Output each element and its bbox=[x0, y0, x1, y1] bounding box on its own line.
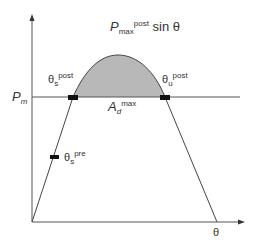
label-sup: max bbox=[121, 99, 136, 108]
label-theta-u-post: θupost bbox=[162, 72, 188, 88]
x-axis-label: θ bbox=[213, 227, 219, 238]
label-sup: pre bbox=[74, 149, 86, 158]
curve-label-sup: post bbox=[134, 19, 149, 28]
marker-theta-u-post bbox=[160, 95, 170, 100]
curve-label-suffix: sin θ bbox=[149, 19, 180, 34]
label-main: P bbox=[12, 89, 21, 104]
shaded-area-ad-max bbox=[73, 55, 165, 97]
label-main: A bbox=[108, 99, 117, 114]
marker-theta-s-pre bbox=[50, 155, 59, 159]
label-sub: s bbox=[70, 157, 74, 166]
curve-right-segment bbox=[165, 97, 217, 222]
curve-label-sub: max bbox=[119, 27, 134, 36]
power-angle-diagram bbox=[0, 0, 262, 245]
marker-theta-s-post bbox=[68, 95, 78, 100]
label-sup: post bbox=[58, 71, 73, 80]
label-sub: s bbox=[54, 79, 58, 88]
label-sup: post bbox=[173, 71, 188, 80]
x-axis-arrow-icon bbox=[238, 220, 245, 225]
y-axis-arrow-icon bbox=[30, 14, 35, 21]
curve-label: Pmaxpost sin θ bbox=[110, 20, 180, 36]
label-sub: m bbox=[21, 97, 28, 106]
label-pm: Pm bbox=[12, 90, 27, 106]
label-sub: u bbox=[168, 79, 172, 88]
label-theta-s-post: θspost bbox=[48, 72, 73, 88]
curve-label-main: P bbox=[110, 19, 119, 34]
label-sub: d bbox=[117, 107, 121, 116]
label-ad-max: Admax bbox=[108, 100, 136, 116]
label-theta-s-pre: θspre bbox=[64, 150, 86, 166]
x-axis-label-text: θ bbox=[213, 226, 219, 238]
